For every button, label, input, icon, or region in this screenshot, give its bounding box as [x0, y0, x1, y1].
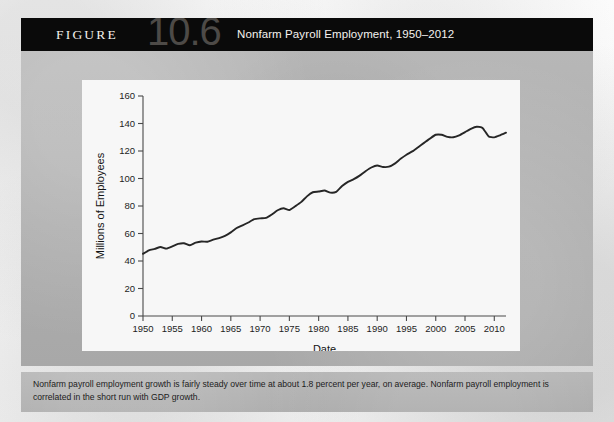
y-axis-title: Millions of Employees [94, 152, 106, 259]
x-tick-label: 1975 [279, 323, 300, 334]
x-tick-label: 2010 [484, 323, 505, 334]
x-tick-label: 1980 [308, 323, 329, 334]
x-tick-label: 2005 [454, 323, 475, 334]
figure-caption-panel: Nonfarm payroll employment growth is fai… [21, 372, 593, 412]
figure-header-bar: FIGURE 10.6 Nonfarm Payroll Employment, … [21, 18, 593, 51]
line-chart: 0204060801001201401601950195519601965197… [82, 80, 520, 351]
y-tick-label: 140 [119, 118, 135, 129]
x-tick-label: 1990 [367, 323, 388, 334]
figure-title: Nonfarm Payroll Employment, 1950–2012 [237, 28, 454, 40]
figure-caption-text: Nonfarm payroll employment growth is fai… [33, 378, 581, 403]
y-tick-label: 60 [124, 228, 135, 239]
x-tick-label: 2000 [425, 323, 446, 334]
x-tick-label: 1955 [162, 323, 183, 334]
y-tick-label: 160 [119, 90, 135, 101]
x-tick-label: 1950 [132, 323, 153, 334]
figure-number: 10.6 [147, 18, 221, 51]
y-tick-label: 20 [124, 283, 135, 294]
figure-block: FIGURE 10.6 Nonfarm Payroll Employment, … [21, 18, 593, 366]
chart-plot-panel: 0204060801001201401601950195519601965197… [82, 80, 520, 351]
y-tick-label: 80 [124, 200, 135, 211]
x-tick-label: 1985 [337, 323, 358, 334]
x-tick-label: 1970 [250, 323, 271, 334]
x-axis-title: Date [313, 343, 336, 351]
figure-body: 0204060801001201401601950195519601965197… [21, 51, 593, 366]
y-tick-label: 120 [119, 145, 135, 156]
y-tick-label: 40 [124, 255, 135, 266]
series-line-nonfarm-payroll [143, 127, 506, 254]
x-tick-label: 1965 [220, 323, 241, 334]
x-tick-label: 1960 [191, 323, 212, 334]
figure-label: FIGURE [56, 27, 118, 43]
y-tick-label: 0 [130, 310, 135, 321]
y-tick-label: 100 [119, 173, 135, 184]
x-tick-label: 1995 [396, 323, 417, 334]
figure-page: FIGURE 10.6 Nonfarm Payroll Employment, … [0, 0, 614, 422]
